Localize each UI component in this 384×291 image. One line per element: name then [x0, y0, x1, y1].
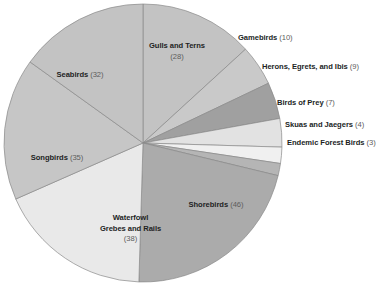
slice-label-waterfowl-grebes-and-rails: Waterfowl Grebes and Rails (38)	[73, 213, 188, 245]
slice-label-shorebirds: Shorebirds (46)	[161, 200, 271, 211]
slice-label-birds-of-prey-count: (7)	[326, 98, 335, 107]
slice-label-gamebirds-name: Gamebirds	[238, 33, 277, 42]
slice-label-waterfowl-name: Waterfowl	[113, 213, 149, 222]
slice-label-gulls-and-terns-name: Gulls and Terns	[149, 41, 205, 50]
slice-label-herons-egrets-and-ibis: Herons, Egrets, and Ibis (9)	[262, 62, 384, 73]
slice-label-songbirds: Songbirds (35)	[2, 153, 112, 164]
slice-label-songbirds-name: Songbirds	[31, 153, 68, 162]
slice-label-seabirds: Seabirds (32)	[25, 70, 135, 81]
slice-label-seabirds-name: Seabirds	[56, 70, 88, 79]
slice-label-endemic-count: (3)	[367, 138, 376, 147]
slice-label-herons-name: Herons, Egrets, and Ibis	[262, 62, 348, 71]
slice-label-skuas-count: (4)	[355, 120, 364, 129]
slice-label-waterfowl-count: (38)	[124, 234, 137, 243]
slice-label-birds-of-prey: Birds of Prey (7)	[277, 98, 384, 109]
slice-label-endemic-forest-birds: Endemic Forest Birds (3)	[287, 138, 384, 149]
slice-label-songbirds-count: (35)	[70, 153, 83, 162]
slice-label-gamebirds: Gamebirds (10)	[238, 33, 384, 44]
slice-label-waterfowl-name2: Grebes and Rails	[100, 224, 161, 233]
slice-label-endemic-name: Endemic Forest Birds	[287, 138, 365, 147]
pie-chart-figure: Gulls and Terns (28) Seabirds (32) Songb…	[0, 0, 384, 291]
slice-label-shorebirds-count: (46)	[230, 200, 243, 209]
slice-label-skuas-and-jaegers: Skuas and Jaegers (4)	[285, 120, 384, 131]
slice-label-skuas-name: Skuas and Jaegers	[285, 120, 353, 129]
slice-label-gamebirds-count: (10)	[279, 33, 292, 42]
slice-label-gulls-and-terns-count: (28)	[170, 52, 183, 61]
slice-label-gulls-and-terns: Gulls and Terns (28)	[122, 41, 232, 62]
slice-label-herons-count: (9)	[350, 62, 359, 71]
slice-label-birds-of-prey-name: Birds of Prey	[277, 98, 324, 107]
slice-label-shorebirds-name: Shorebirds	[189, 200, 229, 209]
slice-label-seabirds-count: (32)	[90, 70, 103, 79]
